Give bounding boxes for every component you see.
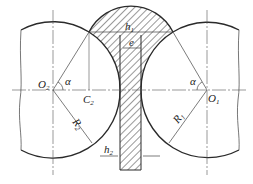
alpha-arc-right <box>197 82 202 90</box>
label-o2: O2 <box>38 78 50 92</box>
label-r1: R1 <box>170 110 188 127</box>
label-r2: R2 <box>68 115 86 133</box>
label-alpha-right: α <box>190 75 196 87</box>
diagram-canvas: O2 α C2 R2 h1 e h2 α O1 R1 <box>0 0 253 184</box>
label-h2: h2 <box>104 143 114 157</box>
label-alpha-left: α <box>65 75 71 87</box>
label-e: e <box>129 36 134 48</box>
label-c2: C2 <box>83 93 94 107</box>
label-o1: O1 <box>208 92 219 106</box>
alpha-arc-left <box>58 82 63 90</box>
